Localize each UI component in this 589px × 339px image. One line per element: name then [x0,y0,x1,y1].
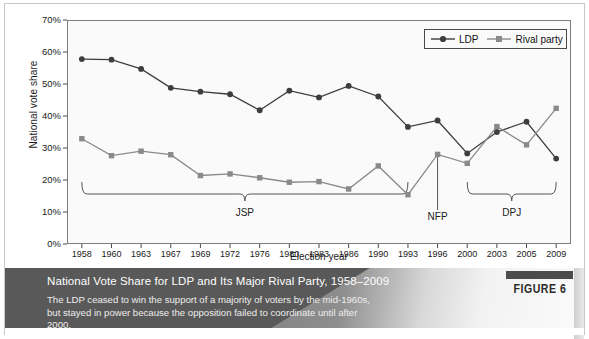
legend-item-ldp: LDP [430,34,478,45]
data-series-group [79,56,559,197]
figure-caption-band: National Vote Share for LDP and Its Majo… [5,268,584,328]
figure-caption-body: The LDP ceased to win the support of a m… [47,294,377,328]
legend-marker-square-icon [486,34,512,44]
chart-region: National vote share Election year 0%10%2… [5,4,584,266]
legend-marker-circle-icon [430,34,456,44]
figure-tag-bar-icon [506,271,573,279]
bracket-label-nfp: NFP [408,211,468,222]
figure-bottom-strip [5,328,584,335]
bracket-label-dpj: DPJ [482,207,542,218]
figure-tag: FIGURE 6 [502,271,578,296]
figure-container: National vote share Election year 0%10%2… [0,0,589,339]
bracket-label-jsp: JSP [215,207,275,218]
legend-label-ldp: LDP [459,34,478,45]
legend-item-rival: Rival party [486,34,562,45]
legend-label-rival: Rival party [515,34,562,45]
chart-legend: LDP Rival party [424,29,567,49]
figure-tag-text: FIGURE 6 [507,282,574,296]
figure-caption-title: National Vote Share for LDP and Its Majo… [47,275,389,287]
